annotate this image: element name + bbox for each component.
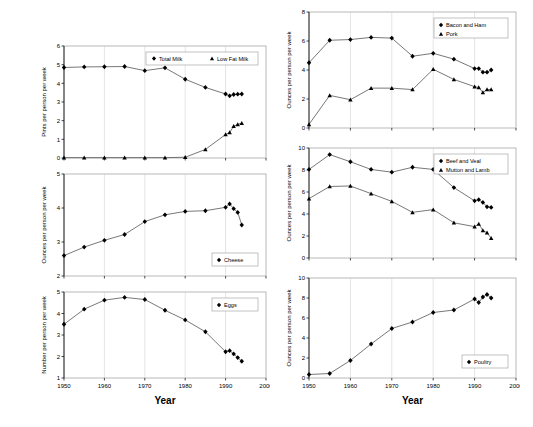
x-axis-title: Year bbox=[402, 395, 423, 406]
y-tick-label: 0 bbox=[302, 255, 306, 261]
y-tick-label: 6 bbox=[57, 43, 61, 49]
y-tick-label: 10 bbox=[298, 275, 305, 281]
y-tick-label: 6 bbox=[302, 189, 306, 195]
y-tick-label: 4 bbox=[57, 81, 61, 87]
x-tick-label: 1980 bbox=[179, 383, 193, 389]
data-point bbox=[410, 165, 414, 170]
data-point bbox=[369, 167, 373, 172]
chart-panel-bacon-pork: 02468Ounces per person per weekBacon and… bbox=[283, 6, 520, 138]
y-tick-label: 4 bbox=[302, 211, 306, 217]
legend-label: Eggs bbox=[224, 302, 237, 308]
data-point bbox=[390, 326, 394, 331]
data-point bbox=[485, 230, 489, 234]
chart-panel-milk: 0123456Pints per person per weekTotal Mi… bbox=[38, 40, 270, 168]
series-line bbox=[309, 69, 491, 124]
y-tick-label: 1 bbox=[57, 375, 61, 381]
y-axis-title: Ounces per person per week bbox=[41, 185, 47, 263]
data-point bbox=[431, 310, 435, 315]
x-tick-label: 1970 bbox=[138, 383, 152, 389]
data-point bbox=[223, 132, 227, 136]
y-tick-label: 2 bbox=[57, 118, 61, 124]
data-point bbox=[481, 228, 485, 232]
chart-panel-cheese: 2345Ounces per person per weekCheese bbox=[38, 168, 270, 286]
data-point bbox=[231, 92, 235, 97]
y-tick-label: 4 bbox=[57, 311, 61, 317]
data-point bbox=[163, 308, 167, 313]
legend: Beef and VealMutton and Lamb bbox=[434, 154, 508, 174]
x-axis-title: Year bbox=[154, 395, 175, 406]
y-axis-title: Pints per person per week bbox=[41, 66, 47, 137]
data-point bbox=[477, 222, 481, 226]
x-tick-label: 1950 bbox=[57, 383, 71, 389]
data-point bbox=[485, 70, 489, 75]
data-point bbox=[477, 197, 481, 202]
data-point bbox=[122, 64, 126, 69]
data-point bbox=[122, 232, 126, 237]
y-axis-title: Number per person per week bbox=[41, 295, 47, 374]
y-tick-label: 4 bbox=[57, 205, 61, 211]
legend-label: Poultry bbox=[474, 359, 492, 365]
data-point bbox=[223, 92, 227, 97]
data-point bbox=[240, 121, 244, 125]
legend: Eggs bbox=[212, 298, 258, 311]
y-tick-label: 4 bbox=[302, 67, 306, 73]
data-point bbox=[82, 307, 86, 312]
y-tick-label: 4 bbox=[302, 335, 306, 341]
legend-label: Cheese bbox=[224, 257, 243, 263]
y-tick-label: 3 bbox=[57, 239, 61, 245]
series-mutton-and-lamb bbox=[307, 184, 494, 240]
y-tick-label: 5 bbox=[57, 62, 61, 68]
y-tick-label: 6 bbox=[302, 38, 306, 44]
data-point bbox=[102, 64, 106, 69]
legend-label: Bacon and Ham bbox=[446, 22, 486, 28]
y-tick-label: 2 bbox=[302, 96, 306, 102]
data-point bbox=[163, 212, 167, 217]
chart-panel-poultry: 1950196019701980199020000246810Ounces pe… bbox=[283, 272, 520, 412]
y-axis-title: Ounces per person per week bbox=[286, 288, 292, 366]
data-point bbox=[62, 253, 66, 258]
data-point bbox=[62, 65, 66, 70]
data-point bbox=[472, 66, 476, 71]
data-point bbox=[307, 167, 311, 172]
data-point bbox=[452, 221, 456, 225]
data-point bbox=[489, 205, 493, 210]
data-point bbox=[452, 308, 456, 313]
data-point bbox=[203, 85, 207, 90]
legend-label: Low Fat Milk bbox=[217, 56, 249, 62]
data-point bbox=[143, 219, 147, 224]
series-line bbox=[64, 204, 242, 256]
data-point bbox=[82, 64, 86, 69]
series-cheese bbox=[62, 202, 244, 259]
data-point bbox=[102, 238, 106, 243]
data-point bbox=[183, 318, 187, 323]
data-point bbox=[327, 371, 331, 376]
y-tick-label: 3 bbox=[57, 332, 61, 338]
legend-label: Beef and Veal bbox=[446, 158, 481, 164]
data-point bbox=[183, 77, 187, 82]
series-low-fat-milk bbox=[62, 121, 244, 160]
y-tick-label: 3 bbox=[57, 99, 61, 105]
x-tick-label: 1960 bbox=[344, 383, 358, 389]
legend: Total MilkLow Fat Milk bbox=[146, 52, 258, 65]
data-point bbox=[240, 223, 244, 228]
x-tick-label: 2000 bbox=[259, 383, 270, 389]
data-point bbox=[431, 207, 435, 211]
data-point bbox=[348, 159, 352, 164]
data-point bbox=[452, 77, 456, 81]
x-tick-label: 1980 bbox=[427, 383, 441, 389]
y-tick-label: 5 bbox=[57, 171, 61, 177]
x-tick-label: 1960 bbox=[98, 383, 112, 389]
y-tick-label: 0 bbox=[57, 155, 61, 161]
chart-panel-beef-mutton: 0246810Ounces per person per weekBeef an… bbox=[283, 142, 520, 268]
y-tick-label: 0 bbox=[302, 375, 306, 381]
x-tick-label: 1950 bbox=[302, 383, 316, 389]
y-tick-label: 8 bbox=[302, 295, 306, 301]
data-point bbox=[227, 130, 231, 134]
y-axis-title: Ounces per person per week bbox=[286, 163, 292, 241]
data-point bbox=[163, 65, 167, 70]
data-point bbox=[82, 245, 86, 250]
data-point bbox=[369, 35, 373, 40]
data-point bbox=[489, 68, 493, 73]
data-point bbox=[307, 196, 311, 200]
data-point bbox=[348, 37, 352, 42]
